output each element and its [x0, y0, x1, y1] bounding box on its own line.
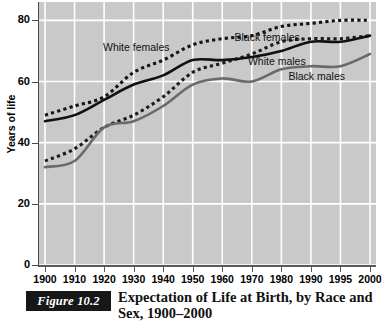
- plot-area: [39, 2, 376, 265]
- figure-caption: Figure 10.2 Expectation of Life at Birth…: [0, 291, 384, 322]
- y-tick-mark: [32, 20, 38, 21]
- series-label-black-males: Black males: [288, 70, 345, 82]
- x-tick-mark: [45, 267, 46, 272]
- x-tick-mark: [75, 267, 76, 272]
- x-tick-mark: [193, 267, 194, 272]
- x-tick-mark: [222, 267, 223, 272]
- y-axis-labels: 020406080: [0, 0, 30, 285]
- series-label-white-females: White females: [103, 41, 170, 53]
- line-chart: Years of life 020406080 1900191019201930…: [0, 0, 384, 285]
- x-tick-mark: [281, 267, 282, 272]
- y-tick-mark: [32, 82, 38, 83]
- caption-line-2: Sex, 1900–2000: [118, 306, 384, 322]
- figure-number-badge: Figure 10.2: [26, 291, 111, 311]
- figure-container: Years of life 020406080 1900191019201930…: [0, 0, 384, 322]
- series-label-white-males: White males: [248, 55, 306, 67]
- x-tick-label: 2000: [353, 273, 384, 285]
- x-tick-mark: [163, 267, 164, 272]
- y-tick-mark: [32, 204, 38, 205]
- y-tick-label: 60: [2, 76, 30, 87]
- y-tick-label: 0: [2, 259, 30, 270]
- x-axis-line: [38, 265, 376, 267]
- x-tick-mark: [311, 267, 312, 272]
- y-tick-mark: [32, 265, 38, 266]
- x-tick-mark: [134, 267, 135, 272]
- x-tick-mark: [340, 267, 341, 272]
- series-label-black-females: Black females: [234, 31, 299, 43]
- caption-line-1: Expectation of Life at Birth, by Race an…: [118, 289, 373, 305]
- y-tick-mark: [32, 143, 38, 144]
- y-tick-label: 40: [2, 137, 30, 148]
- x-tick-mark: [252, 267, 253, 272]
- x-tick-mark: [370, 267, 371, 272]
- y-tick-label: 80: [2, 14, 30, 25]
- y-tick-label: 20: [2, 198, 30, 209]
- figure-caption-text: Expectation of Life at Birth, by Race an…: [118, 290, 384, 321]
- x-tick-mark: [104, 267, 105, 272]
- plot-svg: [39, 2, 376, 265]
